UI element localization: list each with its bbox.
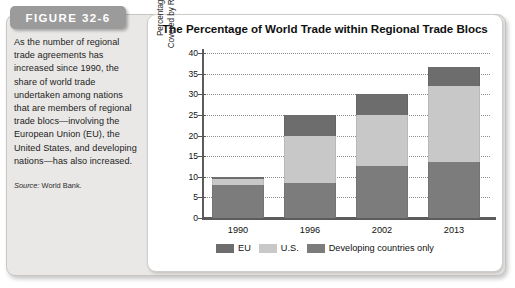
chart-card: The Percentage of World Trade within Reg…: [147, 14, 503, 272]
y-tick-label: 35: [180, 69, 198, 79]
legend-item[interactable]: EU: [216, 243, 251, 253]
y-tick-label: 15: [180, 151, 198, 161]
y-axis-title: Percentage of World Trade Covered by Reg…: [156, 0, 182, 71]
bar-segment[interactable]: [428, 86, 480, 162]
bar-segment[interactable]: [356, 94, 408, 115]
x-tick-label: 2013: [418, 225, 490, 235]
chart-legend: EUU.S.Developing countries only: [148, 243, 502, 253]
bar-segment[interactable]: [212, 177, 264, 179]
figure-root: FIGURE 32-6 As the number of regional tr…: [0, 0, 515, 288]
y-tick-label: 20: [180, 131, 198, 141]
figure-number-badge: FIGURE 32-6: [10, 6, 126, 29]
legend-label: EU: [238, 243, 251, 253]
plot-area: Percentage of World Trade Covered by Reg…: [160, 45, 492, 235]
x-tick-label: 1996: [274, 225, 346, 235]
bar-segment[interactable]: [356, 166, 408, 218]
bar-group[interactable]: [356, 94, 408, 218]
x-tick-label: 1990: [202, 225, 274, 235]
y-tick-label: 5: [180, 192, 198, 202]
y-tick-label: 10: [180, 172, 198, 182]
y-tick-label: 0: [180, 213, 198, 223]
bar-segment[interactable]: [212, 185, 264, 218]
bar-group[interactable]: [284, 115, 336, 218]
bar-segment[interactable]: [212, 179, 264, 185]
axis-area: 0510152025303540 1990199620022013: [202, 53, 490, 218]
x-tick-label: 2002: [346, 225, 418, 235]
y-tick-label: 40: [180, 48, 198, 58]
bar-group[interactable]: [212, 177, 264, 218]
bars-layer: [202, 53, 490, 218]
chart-title: The Percentage of World Trade within Reg…: [148, 22, 502, 35]
caption-column: As the number of regional trade agreemen…: [14, 36, 140, 266]
bar-segment[interactable]: [428, 67, 480, 86]
bar-segment[interactable]: [284, 183, 336, 218]
figure-source: Source: World Bank.: [14, 181, 140, 191]
bar-group[interactable]: [428, 67, 480, 218]
bar-segment[interactable]: [356, 115, 408, 167]
legend-label: U.S.: [281, 243, 299, 253]
bar-segment[interactable]: [284, 136, 336, 183]
legend-swatch: [216, 244, 234, 253]
source-prefix: Source:: [14, 181, 39, 190]
bar-segment[interactable]: [428, 162, 480, 218]
y-tick-mark: [198, 218, 206, 219]
legend-swatch: [307, 244, 325, 253]
legend-item[interactable]: U.S.: [259, 243, 299, 253]
legend-swatch: [259, 244, 277, 253]
y-axis-title-line2: Covered by Regional Agreements: [167, 0, 178, 71]
legend-label: Developing countries only: [329, 243, 434, 253]
y-axis-title-line1: Percentage of World Trade: [156, 0, 167, 71]
figure-number-label: FIGURE 32-6: [25, 12, 110, 24]
source-text: World Bank.: [42, 181, 82, 190]
y-tick-label: 30: [180, 89, 198, 99]
figure-caption: As the number of regional trade agreemen…: [14, 36, 140, 168]
bar-segment[interactable]: [284, 115, 336, 136]
y-tick-label: 25: [180, 110, 198, 120]
legend-item[interactable]: Developing countries only: [307, 243, 434, 253]
